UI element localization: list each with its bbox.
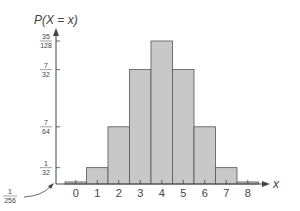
binomial-bar-chart: 01234567813276473235128 P(X = x) x 1256 <box>0 0 300 211</box>
y-tick-denominator: 128 <box>40 42 52 49</box>
x-axis-label: x <box>272 177 280 191</box>
y-axis-arrow-icon <box>53 28 59 36</box>
y-tick-numerator: 7 <box>44 62 48 69</box>
x-tick-label: 3 <box>137 187 143 199</box>
y-tick-numerator: 7 <box>44 119 48 126</box>
y-tick-denominator: 32 <box>42 71 50 78</box>
annotation-numerator: 1 <box>8 188 12 195</box>
y-axis-label: P(X = x) <box>34 13 78 27</box>
y-tick-denominator: 32 <box>42 169 50 176</box>
bar-2 <box>108 127 130 184</box>
x-tick-label: 8 <box>245 187 251 199</box>
x-tick-label: 5 <box>180 187 186 199</box>
x-tick-label: 6 <box>202 187 208 199</box>
x-tick-label: 2 <box>116 187 122 199</box>
x-tick-label: 1 <box>94 187 100 199</box>
y-tick-numerator: 35 <box>42 33 50 40</box>
bar-6 <box>194 127 216 184</box>
annotation-denominator: 256 <box>4 197 16 204</box>
y-tick-numerator: 1 <box>44 160 48 167</box>
bar-4 <box>151 41 173 184</box>
bar-5 <box>173 70 195 184</box>
annotation-arrow-line <box>24 186 51 197</box>
x-tick-label: 7 <box>223 187 229 199</box>
bar-3 <box>130 70 152 184</box>
x-axis-arrow-icon <box>262 181 270 187</box>
annotation-1-256: 1256 <box>3 183 54 204</box>
bars-group <box>65 41 259 184</box>
x-tick-label: 4 <box>159 187 165 199</box>
y-tick-denominator: 64 <box>42 128 50 135</box>
x-tick-label: 0 <box>73 187 79 199</box>
